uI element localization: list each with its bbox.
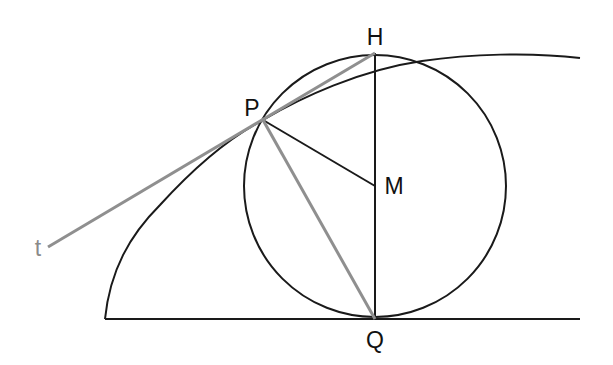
segment-PQ [263,120,375,319]
tangent-line-t [48,53,375,247]
segment-PM [263,120,375,186]
cycloid-diagram: H P M Q t [0,0,613,365]
cycloid-curve [105,54,580,319]
label-H: H [367,24,384,50]
label-M: M [384,173,403,199]
label-P: P [244,95,259,121]
label-Q: Q [366,327,384,353]
label-t: t [35,235,42,261]
